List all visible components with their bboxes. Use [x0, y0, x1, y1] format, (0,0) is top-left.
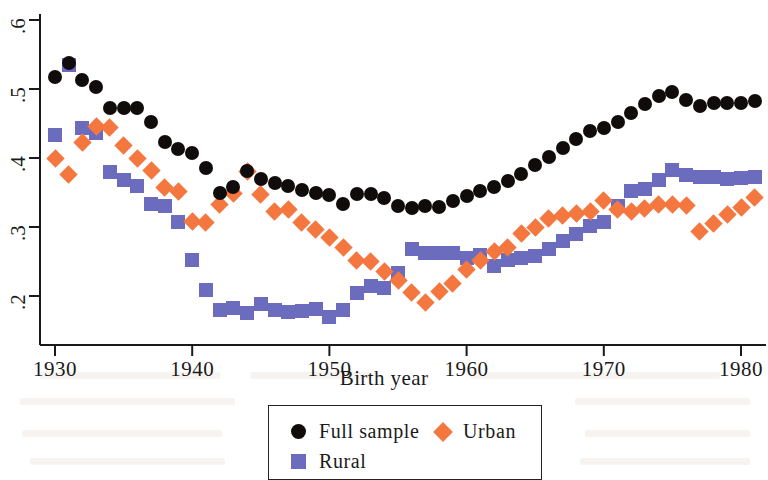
scatter-chart-figure: .2.3.4.5.6193019401950196019701980 Birth… — [0, 0, 768, 480]
legend-item-full-sample: Full sample — [291, 420, 420, 443]
legend-item-urban: Urban — [436, 420, 516, 443]
legend-marker-circle-icon — [291, 424, 306, 439]
y-tick-label: .6 — [6, 18, 31, 34]
y-tick-label: .3 — [6, 225, 31, 241]
legend-item-rural: Rural — [291, 450, 366, 473]
legend-label-urban: Urban — [463, 420, 516, 443]
chart-legend: Full sample Urban Rural — [268, 405, 542, 480]
y-tick-label: .4 — [6, 156, 31, 172]
y-tick-label: .2 — [6, 294, 31, 310]
y-tick-label: .5 — [6, 87, 31, 103]
x-axis-title: Birth year — [0, 366, 768, 391]
legend-marker-diamond-icon — [433, 422, 453, 442]
legend-label-rural: Rural — [319, 450, 366, 473]
legend-marker-square-icon — [291, 454, 306, 469]
legend-label-full-sample: Full sample — [319, 420, 420, 443]
